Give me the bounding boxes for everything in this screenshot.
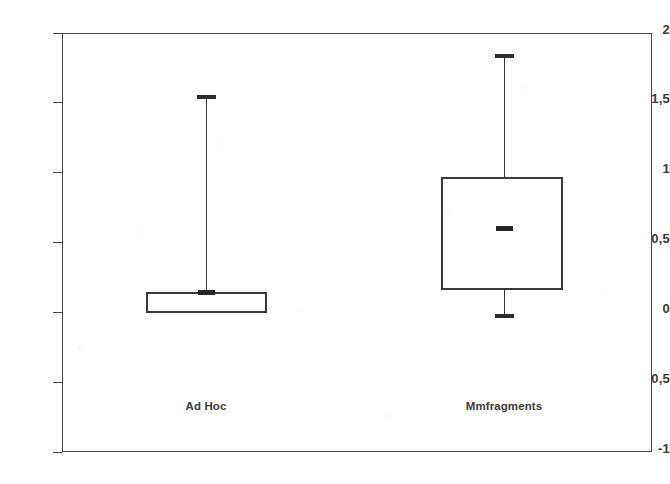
median-marker-mmfragments <box>496 226 513 231</box>
whisker-cap-upper-ad-hoc <box>197 95 216 99</box>
whisker-upper-ad-hoc <box>206 97 207 293</box>
y-axis-tick-neg-0-5 <box>53 382 62 383</box>
box-ad-hoc <box>146 292 267 313</box>
category-label-mmfragments: Mmfragments <box>466 400 543 412</box>
whisker-lower-mmfragments <box>504 290 505 316</box>
whisker-cap-upper-mmfragments <box>495 54 514 58</box>
median-marker-ad-hoc <box>198 290 215 295</box>
category-label-ad-hoc: Ad Hoc <box>186 400 227 412</box>
y-axis-tick-1 <box>53 172 62 173</box>
whisker-cap-lower-mmfragments <box>495 314 514 318</box>
y-axis-tick-2 <box>53 33 62 34</box>
y-axis-tick-0 <box>53 312 62 313</box>
y-axis-tick-0-5 <box>53 242 62 243</box>
box-mmfragments <box>441 177 563 290</box>
whisker-upper-mmfragments <box>504 56 505 178</box>
plot-area <box>62 33 652 452</box>
box-plot-chart: 2 1,5 1 0,5 0 -0,5 -1 Ad Hoc Mmfragments <box>0 0 670 484</box>
y-axis-tick-1-5 <box>53 102 62 103</box>
y-axis-tick-neg-1 <box>53 452 62 453</box>
